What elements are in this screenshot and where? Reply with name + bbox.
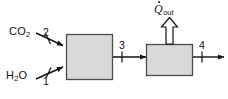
process-flow-diagram: CO2 H2O 2 1 3 4 Qout (0, 0, 228, 99)
h2o-label-text: H (6, 69, 14, 81)
stream-3-number: 3 (119, 40, 125, 51)
co2-label-text: CO (9, 25, 26, 37)
unit-right-box[interactable] (147, 45, 193, 76)
stream-2-number: 2 (43, 27, 49, 38)
h2o-label-subscript: 2 (14, 74, 18, 83)
co2-label-subscript: 2 (26, 30, 30, 39)
stream-4-number: 4 (199, 40, 205, 51)
h2o-inlet-arrow (36, 67, 63, 79)
heat-out-hollow-arrow (162, 18, 178, 45)
h2o-label: H2O (6, 70, 27, 81)
h2o-label-tail: O (19, 69, 28, 81)
flow-diagram-canvas (0, 0, 228, 99)
heat-out-subscript: out (163, 8, 173, 17)
stream-4-arrow (193, 52, 224, 63)
stream-1-number: 1 (43, 76, 49, 87)
co2-label: CO2 (9, 26, 30, 37)
unit-left-box[interactable] (67, 35, 113, 80)
stream-3-arrow (113, 52, 146, 63)
co2-inlet-arrow (36, 33, 63, 46)
heat-out-symbol: Q (154, 3, 163, 15)
heat-out-label: Qout (154, 3, 173, 15)
